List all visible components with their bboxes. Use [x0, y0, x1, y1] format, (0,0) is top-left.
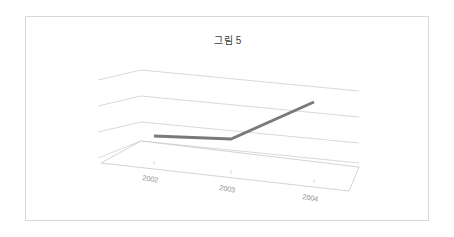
floor-polygon: [101, 141, 359, 191]
data-series-line: [154, 102, 314, 139]
x-axis-label-2004: 2004: [302, 192, 319, 203]
gridline-1: [98, 96, 359, 117]
x-axis-label-2002: 2002: [142, 173, 159, 184]
series-line-series1: [154, 102, 314, 139]
chart-floor: [101, 141, 359, 191]
chart-frame: 그림 5 200220032004: [25, 16, 429, 221]
chart-plot-area: 200220032004: [26, 17, 430, 222]
gridline-0: [98, 70, 359, 91]
figure-root: 그림 5 200220032004: [0, 0, 454, 237]
x-axis-label-2003: 2003: [219, 183, 236, 194]
